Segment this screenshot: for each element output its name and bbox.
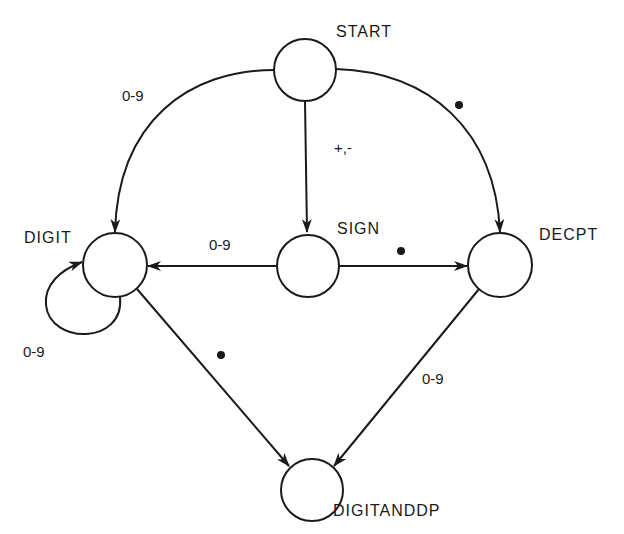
label-digit: DIGIT (24, 229, 72, 246)
state-decpt (468, 233, 532, 297)
edge-label-start-digit: 0-9 (122, 87, 144, 104)
edge-label-start-decpt-dot (455, 101, 463, 109)
state-start (274, 39, 336, 101)
edge-start-to-decpt (336, 69, 500, 232)
edge-digit-to-digitanddp (137, 289, 289, 466)
edge-decpt-to-digitanddp (334, 289, 479, 466)
edge-label-digit-digitanddp-dot (217, 351, 225, 359)
edge-start-to-sign (305, 101, 307, 232)
edge-label-decpt-digitanddp: 0-9 (422, 370, 444, 387)
state-digit (83, 233, 147, 297)
label-decpt: DECPT (539, 226, 598, 243)
label-start: START (336, 23, 392, 40)
edge-label-digit-self: 0-9 (23, 343, 45, 360)
edge-label-sign-digit: 0-9 (209, 236, 231, 253)
label-sign: SIGN (337, 220, 380, 237)
label-digitanddp: DIGITANDDP (333, 502, 440, 519)
state-sign (277, 235, 339, 297)
edge-label-start-sign: +,- (334, 139, 352, 156)
state-diagram: START SIGN DIGIT DECPT DIGITANDDP 0-9 +,… (0, 0, 624, 534)
edge-label-sign-decpt-dot (397, 247, 405, 255)
